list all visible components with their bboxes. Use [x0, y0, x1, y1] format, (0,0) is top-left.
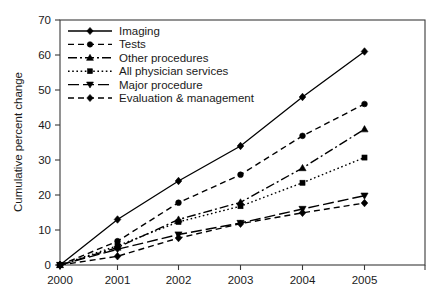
series-line	[60, 196, 365, 265]
series-line	[60, 158, 365, 265]
x-tick-label: 2005	[352, 274, 378, 286]
cumulative-percent-change-line-chart: 010203040506070 200020012002200320042005…	[0, 0, 440, 303]
data-point-marker	[114, 252, 121, 260]
series-line	[60, 104, 365, 265]
legend-label: Other procedures	[119, 52, 209, 64]
data-point-marker	[238, 172, 244, 178]
y-tick-label: 20	[38, 189, 51, 201]
legend-label: Tests	[119, 38, 146, 50]
legend-marker-sample	[87, 42, 92, 47]
data-point-marker	[362, 101, 368, 107]
series-evaluation-management	[57, 199, 368, 268]
x-axis: 200020012002200320042005	[47, 265, 425, 286]
data-point-marker	[175, 177, 182, 185]
data-series-group	[56, 48, 368, 269]
data-point-marker	[238, 204, 243, 209]
series-tests	[57, 101, 367, 268]
y-axis: 010203040506070	[38, 14, 60, 271]
y-tick-label: 50	[38, 84, 51, 96]
y-tick-label: 30	[38, 154, 51, 166]
legend-marker-sample	[88, 69, 93, 74]
chart-legend: ImagingTestsOther proceduresAll physicia…	[68, 25, 255, 104]
y-tick-label: 70	[38, 14, 51, 26]
legend-item: Other procedures	[68, 52, 209, 64]
data-point-marker	[361, 199, 368, 207]
data-point-marker	[361, 126, 368, 132]
data-point-marker	[300, 133, 306, 139]
legend-item: Evaluation & management	[68, 92, 255, 104]
plot-frame	[60, 20, 425, 265]
legend-marker-sample	[87, 94, 93, 101]
x-tick-label: 2002	[166, 274, 192, 286]
data-point-marker	[176, 219, 181, 224]
data-point-marker	[361, 48, 368, 56]
series-other-procedures	[56, 126, 368, 268]
x-tick-label: 2004	[290, 274, 316, 286]
series-imaging	[57, 48, 368, 269]
series-line	[60, 129, 365, 265]
data-point-marker	[176, 200, 182, 206]
plot-area-border	[60, 20, 425, 265]
series-line	[60, 203, 365, 265]
legend-label: Major procedure	[119, 79, 203, 91]
y-tick-label: 10	[38, 224, 51, 236]
legend-label: All physician services	[119, 65, 229, 77]
x-tick-label: 2003	[228, 274, 254, 286]
x-tick-label: 2001	[105, 274, 131, 286]
y-tick-label: 40	[38, 119, 51, 131]
legend-item: Major procedure	[68, 79, 203, 91]
y-tick-label: 0	[45, 259, 51, 271]
y-tick-label: 60	[38, 49, 51, 61]
legend-item: Tests	[68, 38, 146, 50]
data-point-marker	[299, 164, 306, 170]
y-axis-title: Cumulative percent change	[12, 72, 24, 212]
legend-item: Imaging	[68, 25, 160, 37]
x-tick-label: 2000	[47, 274, 73, 286]
legend-label: Imaging	[119, 25, 160, 37]
chart-container: 010203040506070 200020012002200320042005…	[0, 0, 440, 303]
series-all-physician-services	[57, 155, 367, 268]
data-point-marker	[300, 180, 305, 185]
data-point-marker	[362, 155, 367, 160]
data-point-marker	[175, 234, 182, 242]
legend-label: Evaluation & management	[119, 92, 255, 104]
legend-marker-sample	[87, 27, 93, 34]
series-line	[60, 52, 365, 266]
legend-item: All physician services	[68, 65, 229, 77]
